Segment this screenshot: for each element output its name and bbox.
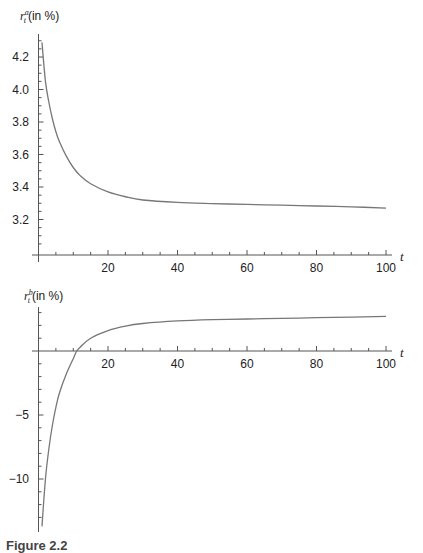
bottom-chart: −5−10 20406080100 rbt(in %) t xyxy=(9,288,404,532)
top-x-tick-label: 100 xyxy=(376,261,396,275)
top-y-axis-title: rat(in %) xyxy=(20,8,59,25)
bottom-axes xyxy=(32,307,392,532)
bottom-x-tick-label: 20 xyxy=(101,357,115,371)
bottom-x-tick-label: 40 xyxy=(171,357,185,371)
top-x-tick-label: 60 xyxy=(240,261,254,275)
bottom-y-tick-labels: −5−10 xyxy=(9,408,30,486)
bottom-x-tick-label: 80 xyxy=(310,357,324,371)
top-y-tick-labels: 4.24.03.83.63.43.2 xyxy=(12,50,29,227)
bottom-x-axis-title: t xyxy=(400,345,404,360)
top-chart: 4.24.03.83.63.43.2 20406080100 rat(in %)… xyxy=(12,8,404,275)
figure-caption: Figure 2.2 xyxy=(6,538,67,553)
top-ticks xyxy=(39,41,387,255)
top-y-tick-label: 3.6 xyxy=(12,148,29,162)
top-y-tick-label: 3.4 xyxy=(12,180,29,194)
top-x-tick-label: 40 xyxy=(171,261,185,275)
bottom-x-tick-labels: 20406080100 xyxy=(101,357,396,371)
bottom-y-tick-label: −5 xyxy=(15,408,29,422)
top-x-axis-title: t xyxy=(400,249,404,264)
bottom-series-line xyxy=(42,316,386,526)
top-y-tick-label: 4.2 xyxy=(12,50,29,64)
top-axes xyxy=(32,34,392,262)
top-x-tick-label: 20 xyxy=(101,261,115,275)
bottom-y-tick-label: −10 xyxy=(9,472,30,486)
top-x-tick-labels: 20406080100 xyxy=(101,261,396,275)
bottom-x-tick-label: 60 xyxy=(240,357,254,371)
top-x-tick-label: 80 xyxy=(310,261,324,275)
top-series-line xyxy=(42,42,386,208)
top-y-tick-label: 3.2 xyxy=(12,213,29,227)
top-y-tick-label: 3.8 xyxy=(12,115,29,129)
top-y-tick-label: 4.0 xyxy=(12,83,29,97)
bottom-x-tick-label: 100 xyxy=(376,357,396,371)
bottom-ticks xyxy=(39,313,387,518)
bottom-y-axis-title: rbt(in %) xyxy=(24,288,63,305)
